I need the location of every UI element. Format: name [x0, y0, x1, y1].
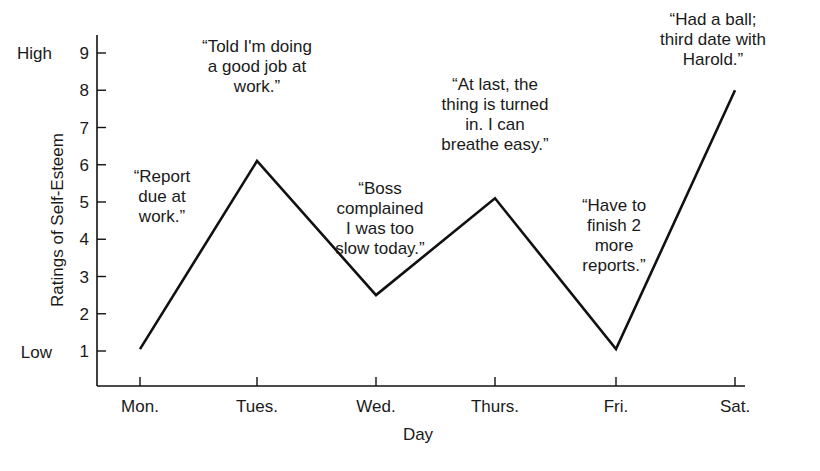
x-tick-label: Wed.: [356, 397, 395, 416]
y-tick-label: 7: [80, 119, 89, 138]
y-axis-title: Ratings of Self-Esteem: [48, 133, 67, 307]
x-tick-label: Tues.: [236, 397, 278, 416]
x-tick-label: Sat.: [720, 397, 750, 416]
annotation-mon: “Reportdue atwork.”: [134, 167, 191, 226]
x-axis-title: Day: [403, 425, 434, 444]
x-tick-label: Thurs.: [471, 397, 519, 416]
self-esteem-series-line: [140, 90, 735, 349]
y-tick-label: 2: [80, 305, 89, 324]
x-axis-ticks: Mon.Tues.Wed.Thurs.Fri.Sat.: [121, 377, 750, 416]
y-tick-label: 6: [80, 156, 89, 175]
y-tick-label: 3: [80, 268, 89, 287]
x-tick-label: Mon.: [121, 397, 159, 416]
y-tick-label: 4: [80, 230, 89, 249]
y-tick-label: 5: [80, 193, 89, 212]
y-axis-ticks: 123456789: [80, 44, 106, 361]
y-tick-label: 9: [80, 44, 89, 63]
y-tick-label: 1: [80, 342, 89, 361]
annotation-wed: “BosscomplainedI was tooslow today.”: [335, 179, 425, 258]
self-esteem-line-chart: 123456789 Mon.Tues.Wed.Thurs.Fri.Sat. “R…: [0, 0, 820, 471]
annotation-tues: “Told I'm doinga good job atwork.”: [202, 37, 312, 96]
y-low-label: Low: [21, 343, 53, 362]
y-tick-label: 8: [80, 81, 89, 100]
x-tick-label: Fri.: [604, 397, 629, 416]
y-high-label: High: [17, 44, 52, 63]
annotation-fri: “Have tofinish 2morereports.”: [582, 196, 646, 275]
annotation-sat: “Had a ball;third date withHarold.”: [660, 10, 766, 69]
annotation-thurs: “At last, thething is turnedin. I canbre…: [441, 75, 549, 154]
